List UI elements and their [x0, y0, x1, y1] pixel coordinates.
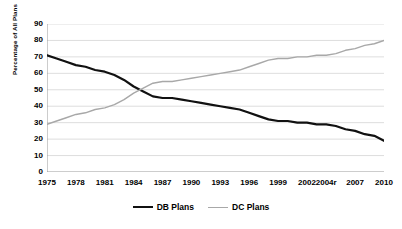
legend-entry: DB Plans [133, 203, 194, 212]
plot-area [47, 24, 384, 172]
x-tick-label: 1987 [154, 179, 172, 187]
x-tick-label: 1978 [67, 179, 85, 187]
y-tick-label: 50 [0, 86, 43, 94]
legend-line-swatch-icon [208, 207, 228, 208]
y-tick-label: 0 [0, 168, 43, 176]
x-tick-label: 1975 [38, 179, 56, 187]
axis-lines [47, 24, 384, 172]
legend-entry: DC Plans [208, 203, 269, 212]
y-tick-label: 30 [0, 119, 43, 127]
y-tick-label: 10 [0, 152, 43, 160]
series-line-db-plans [47, 55, 384, 141]
y-tick-label: 90 [0, 20, 43, 28]
x-axis-tick-labels: 1975197819811984198719901993199619992002… [47, 179, 384, 193]
line-chart: Percentage of All Plans 0102030405060708… [0, 0, 402, 229]
x-tick-label: 1990 [183, 179, 201, 187]
series-line-dc-plans [47, 40, 384, 124]
data-series [47, 40, 384, 140]
x-tick-label: 1981 [96, 179, 114, 187]
y-axis-tick-labels: 0102030405060708090 [0, 24, 43, 172]
y-tick-label: 40 [0, 102, 43, 110]
x-tick-label: 2007 [346, 179, 364, 187]
y-tick-label: 70 [0, 53, 43, 61]
legend-label: DC Plans [232, 203, 269, 212]
gridlines [47, 24, 384, 156]
x-tick-label: 1984 [125, 179, 143, 187]
y-tick-label: 80 [0, 36, 43, 44]
y-tick-label: 60 [0, 69, 43, 77]
legend-line-swatch-icon [133, 206, 153, 208]
x-tick-label: 2002 [298, 179, 316, 187]
x-tick-label: 1999 [269, 179, 287, 187]
legend-label: DB Plans [157, 203, 194, 212]
x-tick-label: 2004r [316, 179, 337, 187]
y-tick-label: 20 [0, 135, 43, 143]
plot-svg [47, 24, 384, 172]
x-tick-label: 1996 [240, 179, 258, 187]
x-tick-label: 2010 [375, 179, 393, 187]
chart-legend: DB PlansDC Plans [0, 203, 402, 212]
x-tick-label: 1993 [211, 179, 229, 187]
